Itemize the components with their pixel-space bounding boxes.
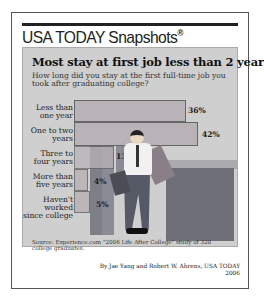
category-label: One to twoyears xyxy=(31,127,73,143)
category-label: Three tofour years xyxy=(34,150,73,166)
registered-mark: ® xyxy=(177,28,183,38)
value-label: 36% xyxy=(188,106,206,115)
value-label: 4% xyxy=(94,177,107,186)
bar-havent-worked xyxy=(74,191,90,213)
brand-name: USA TODAY Snapshots xyxy=(22,28,177,47)
desk-illustration xyxy=(166,168,234,241)
chart-subtitle: How long did you stay at the first full-… xyxy=(32,72,232,89)
category-label: Less thanone year xyxy=(36,104,73,120)
top-rule xyxy=(22,23,238,26)
bar-less-than-one-year xyxy=(74,100,186,122)
category-labels: Less thanone year One to twoyears Three … xyxy=(22,95,73,235)
shoe-illustration xyxy=(126,228,148,234)
bar-three-to-four-years xyxy=(74,146,114,169)
category-label: Haven't workedsince college xyxy=(22,196,73,220)
source-note: Source: Experience.com "2006 Life After … xyxy=(32,239,232,252)
bar-more-than-five-years xyxy=(74,169,88,191)
value-label: 42% xyxy=(202,130,220,139)
businessman-head-illustration xyxy=(130,130,144,144)
chart-title: Most stay at first job less than 2 years xyxy=(32,55,264,69)
category-label: More thanfive years xyxy=(33,173,73,189)
tie-illustration xyxy=(136,145,139,167)
value-label: 5% xyxy=(96,200,109,209)
brand-title: USA TODAY Snapshots® xyxy=(22,28,183,48)
byline: By Jae Yang and Robert W. Ahrens, USA TO… xyxy=(100,263,240,277)
